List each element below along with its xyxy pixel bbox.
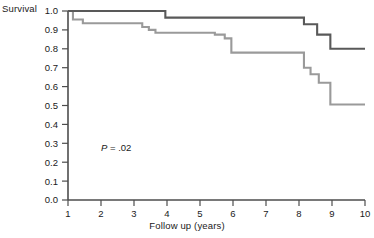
survival-chart: Survival Follow up (years) P = .02 0.00.… (0, 0, 374, 238)
x-tick-label: 4 (164, 208, 169, 219)
y-axis-ticks: 0.00.10.20.30.40.50.60.70.80.91.0 (45, 5, 68, 205)
x-tick-label: 10 (360, 208, 371, 219)
y-tick-label: 0.7 (45, 62, 58, 73)
x-tick-label: 2 (98, 208, 103, 219)
x-tick-label: 6 (230, 208, 235, 219)
y-tick-label: 0.4 (45, 119, 58, 130)
survival-curve-lower (68, 11, 365, 105)
x-tick-label: 7 (263, 208, 268, 219)
y-tick-label: 0.0 (45, 194, 58, 205)
plot-area: 0.00.10.20.30.40.50.60.70.80.91.0 123456… (0, 0, 374, 238)
y-tick-label: 0.2 (45, 157, 58, 168)
y-tick-label: 0.3 (45, 138, 58, 149)
y-tick-label: 0.8 (45, 43, 58, 54)
p-value-annotation: P = .02 (101, 142, 131, 153)
x-axis-title: Follow up (years) (0, 220, 374, 231)
x-tick-label: 8 (296, 208, 301, 219)
y-tick-label: 0.5 (45, 100, 58, 111)
y-axis-title: Survival (2, 3, 37, 14)
x-tick-label: 9 (329, 208, 334, 219)
survival-curve-upper (68, 11, 365, 49)
x-tick-label: 3 (131, 208, 136, 219)
y-tick-label: 0.9 (45, 24, 58, 35)
y-tick-label: 1.0 (45, 5, 58, 16)
y-tick-label: 0.6 (45, 81, 58, 92)
y-tick-label: 0.1 (45, 176, 58, 187)
x-tick-label: 5 (197, 208, 202, 219)
x-tick-label: 1 (65, 208, 70, 219)
x-axis-ticks: 12345678910 (65, 200, 370, 219)
